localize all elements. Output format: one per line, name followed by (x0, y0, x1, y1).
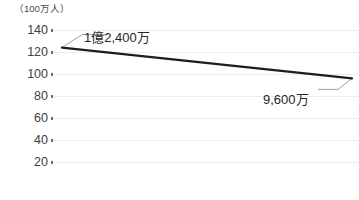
annotation-end-value: 9,600万 (263, 93, 309, 106)
annotation-start-value: 1億2,400万 (84, 31, 150, 44)
leader-line-end (318, 78, 352, 89)
population-trend-line (62, 48, 352, 79)
population-line-chart: （100万人） 14012010080604020 1億2,400万 9,600… (0, 0, 359, 200)
